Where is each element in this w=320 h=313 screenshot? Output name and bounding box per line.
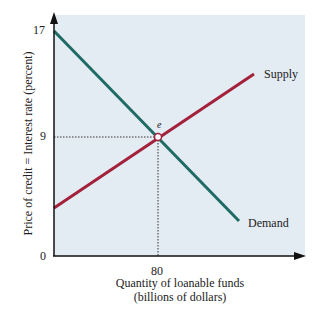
equilibrium-label: e: [157, 119, 161, 130]
y-tick-0: 0: [40, 249, 46, 264]
supply-label: Supply: [264, 67, 298, 82]
y-tick-9: 9: [40, 129, 46, 144]
x-axis-label: Quantity of loanable funds (billions of …: [80, 276, 280, 304]
equilibrium-point: [155, 134, 162, 141]
x-axis-label-main: Quantity of loanable funds: [80, 276, 280, 290]
y-tick-17: 17: [33, 23, 45, 38]
demand-label: Demand: [248, 216, 289, 231]
x-axis-label-sub: (billions of dollars): [80, 290, 280, 304]
y-axis-label: Price of credit = Interest rate (percent…: [21, 56, 36, 236]
